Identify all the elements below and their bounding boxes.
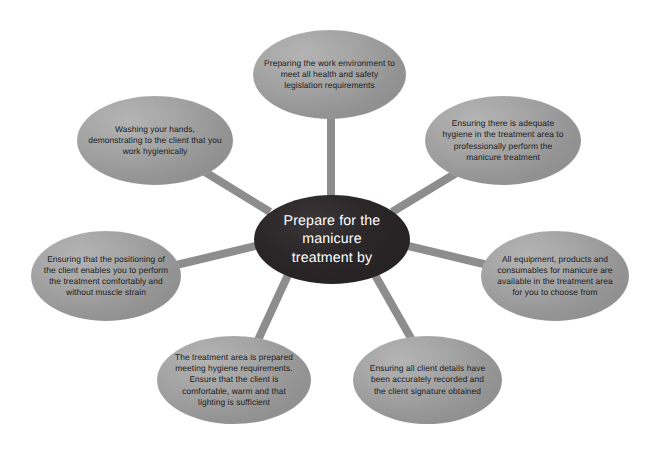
node-top-left-label: Washing your hands, demonstrating to the…	[77, 124, 233, 157]
connector-hub-to-top-left	[205, 172, 270, 212]
node-top-label: Preparing the work environment to meet a…	[253, 58, 406, 91]
node-top[interactable]: Preparing the work environment to meet a…	[253, 30, 406, 119]
node-top-right-label: Ensuring there is adequate hygiene in th…	[425, 118, 581, 162]
node-bottom-left-label: The treatment area is prepared meeting h…	[157, 352, 311, 407]
node-bottom-right-label: Ensuring all client details have been ac…	[353, 363, 502, 396]
node-right[interactable]: All equipment, products and consumables …	[481, 231, 629, 321]
node-bottom-left[interactable]: The treatment area is prepared meeting h…	[157, 336, 311, 424]
connector-hub-to-right	[404, 245, 492, 266]
node-hub-center[interactable]: Prepare for the manicure treatment by	[254, 195, 410, 284]
node-top-left[interactable]: Washing your hands, demonstrating to the…	[77, 96, 233, 185]
connector-hub-to-bottom-right	[375, 275, 412, 340]
connector-hub-to-top-right	[392, 172, 458, 212]
node-right-label: All equipment, products and consumables …	[481, 254, 629, 298]
node-bottom-right[interactable]: Ensuring all client details have been ac…	[353, 336, 502, 424]
node-left-label: Ensuring that the positioning of the cli…	[31, 254, 181, 298]
node-hub-label: Prepare for the manicure treatment by	[254, 212, 410, 267]
diagram-canvas: Preparing the work environment to meet a…	[0, 0, 657, 461]
connector-hub-to-bottom-left	[258, 275, 288, 340]
node-top-right[interactable]: Ensuring there is adequate hygiene in th…	[425, 96, 581, 185]
node-left[interactable]: Ensuring that the positioning of the cli…	[31, 231, 181, 321]
connector-hub-to-left	[172, 245, 260, 266]
